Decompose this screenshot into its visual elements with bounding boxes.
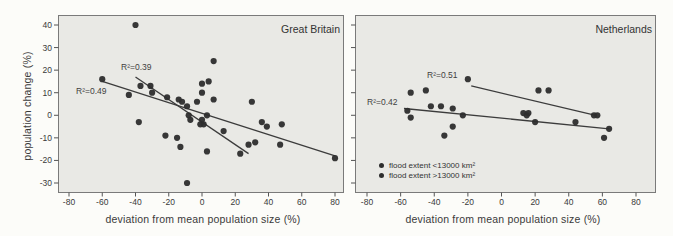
plot-panel-great-britain bbox=[59, 16, 344, 193]
scatter-point bbox=[465, 76, 471, 82]
x-tick-label: -80 bbox=[63, 197, 76, 207]
legend-item-small-flood: flood extent <13000 km² bbox=[379, 161, 475, 171]
scatter-point bbox=[206, 78, 212, 84]
scatter-point bbox=[162, 133, 168, 139]
scatter-point bbox=[428, 103, 434, 109]
x-tick-label: -60 bbox=[96, 197, 109, 207]
scatter-point bbox=[264, 123, 270, 129]
scatter-point bbox=[606, 126, 612, 132]
scatter-point bbox=[237, 151, 243, 157]
y-tick-label: 40 bbox=[43, 20, 53, 30]
r-squared-label-gb-lower: R²=0.49 bbox=[76, 86, 106, 96]
scatter-point bbox=[441, 133, 447, 139]
scatter-point bbox=[594, 112, 600, 118]
scatter-point bbox=[221, 128, 227, 134]
y-tick-label: -20 bbox=[40, 155, 53, 165]
scatter-point bbox=[177, 144, 183, 150]
scatter-point bbox=[137, 83, 143, 89]
scatter-point bbox=[545, 87, 551, 93]
scatter-point bbox=[211, 96, 217, 102]
x-tick-label: 60 bbox=[598, 197, 608, 207]
scatter-point bbox=[99, 76, 105, 82]
scatter-point bbox=[179, 99, 185, 105]
y-tick-label: -10 bbox=[40, 133, 53, 143]
x-tick-label: -80 bbox=[361, 197, 374, 207]
scatter-point bbox=[532, 119, 538, 125]
scatter-point bbox=[460, 112, 466, 118]
scatter-point bbox=[211, 58, 217, 64]
x-tick-label: 80 bbox=[330, 197, 340, 207]
scatter-point bbox=[147, 83, 153, 89]
panel-title-great-britain: Great Britain bbox=[281, 23, 340, 35]
filled-dot-icon bbox=[379, 163, 384, 168]
scatter-point bbox=[204, 112, 210, 118]
scatter-plot-canvas: -80-60-40-20020406080403020100-10-20-30-… bbox=[0, 0, 673, 236]
y-tick-label: 30 bbox=[43, 43, 53, 53]
r-squared-label-nl-upper: R²=0.51 bbox=[427, 70, 457, 80]
x-tick-label: 40 bbox=[264, 197, 274, 207]
legend-item-label: flood extent <13000 km² bbox=[389, 161, 475, 170]
scatter-point bbox=[245, 142, 251, 148]
scatter-point bbox=[194, 99, 200, 105]
scatter-point bbox=[132, 22, 138, 28]
scatter-point bbox=[187, 117, 193, 123]
x-tick-label: 0 bbox=[499, 197, 504, 207]
y-tick-label: 20 bbox=[43, 65, 53, 75]
x-tick-label: 20 bbox=[530, 197, 540, 207]
scatter-point bbox=[136, 119, 142, 125]
y-tick-label: 0 bbox=[47, 110, 52, 120]
x-tick-label: -20 bbox=[163, 197, 176, 207]
y-tick-label: -30 bbox=[40, 178, 53, 188]
scatter-point bbox=[601, 135, 607, 141]
scatter-point bbox=[279, 121, 285, 127]
x-tick-label: 0 bbox=[200, 197, 205, 207]
x-axis-title-netherlands: deviation from mean population size (%) bbox=[405, 213, 600, 225]
legend-item-large-flood: flood extent >13000 km² bbox=[379, 171, 475, 181]
scatter-point bbox=[450, 105, 456, 111]
filled-dot-icon bbox=[379, 173, 384, 178]
scatter-point bbox=[423, 87, 429, 93]
x-tick-label: 40 bbox=[564, 197, 574, 207]
y-tick-label: 10 bbox=[43, 88, 53, 98]
y-axis-title: population change (%) bbox=[21, 51, 33, 160]
x-axis-title-great-britain: deviation from mean population size (%) bbox=[105, 213, 300, 225]
scatter-point bbox=[450, 123, 456, 129]
x-tick-label: -40 bbox=[129, 197, 142, 207]
scatter-point bbox=[174, 135, 180, 141]
x-tick-label: 80 bbox=[631, 197, 641, 207]
scatter-point bbox=[525, 110, 531, 116]
scatter-point bbox=[184, 180, 190, 186]
scatter-point bbox=[408, 114, 414, 120]
scatter-point bbox=[184, 103, 190, 109]
x-tick-label: 60 bbox=[297, 197, 307, 207]
scatter-point bbox=[572, 119, 578, 125]
x-tick-label: 20 bbox=[231, 197, 241, 207]
scatter-point bbox=[408, 90, 414, 96]
scatter-point bbox=[535, 87, 541, 93]
scatter-point bbox=[249, 99, 255, 105]
scatter-point bbox=[164, 94, 170, 100]
r-squared-label-nl-lower: R²=0.42 bbox=[367, 97, 397, 107]
r-squared-label-gb-upper: R²=0.39 bbox=[121, 62, 151, 72]
scatter-point bbox=[204, 148, 210, 154]
scatter-point bbox=[332, 155, 338, 161]
scatter-point bbox=[252, 139, 258, 145]
scatter-point bbox=[259, 119, 265, 125]
scatter-point bbox=[199, 81, 205, 87]
scatter-point bbox=[438, 103, 444, 109]
legend: flood extent <13000 km² flood extent >13… bbox=[379, 161, 475, 180]
scatter-point bbox=[277, 142, 283, 148]
x-tick-label: -60 bbox=[394, 197, 407, 207]
scatter-point bbox=[199, 90, 205, 96]
panel-title-netherlands: Netherlands bbox=[595, 23, 652, 35]
x-tick-label: -40 bbox=[428, 197, 441, 207]
scatter-point bbox=[149, 90, 155, 96]
scatter-point bbox=[201, 121, 207, 127]
legend-item-label: flood extent >13000 km² bbox=[389, 171, 475, 180]
scatter-point bbox=[404, 108, 410, 114]
scatter-point bbox=[126, 92, 132, 98]
flood-population-figure: -80-60-40-20020406080403020100-10-20-30-… bbox=[0, 0, 673, 236]
x-tick-label: -20 bbox=[462, 197, 475, 207]
